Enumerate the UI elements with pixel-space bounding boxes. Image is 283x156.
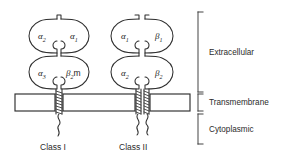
bracket-cytoplasmic — [198, 114, 203, 144]
class-i-interdomain-linker — [57, 53, 61, 56]
class-ii-cytoplasmic-tail-alpha — [137, 114, 139, 135]
caption-class-i: Class I — [40, 142, 66, 152]
class-i-transmembrane-helix — [56, 89, 62, 114]
bracket-transmembrane — [198, 94, 203, 111]
mhc-structure-figure: α2 α1 α3 β2m α1 β1 α2 β2 Extracellular T… — [0, 0, 283, 156]
class-ii-cytoplasmic-tail-beta — [146, 114, 148, 135]
class-i-label-alpha2: α2 — [38, 31, 46, 43]
class-ii-label-alpha2: α2 — [121, 68, 129, 80]
class-i-upper-clasp — [57, 15, 61, 19]
membrane-bar-right — [150, 94, 190, 111]
region-label-transmembrane: Transmembrane — [209, 98, 269, 107]
class-ii-label-alpha1: α1 — [121, 31, 129, 43]
caption-class-ii: Class II — [119, 142, 147, 152]
region-label-cytoplasmic: Cytoplasmic — [209, 125, 254, 134]
class-i-lower-left-lobe — [29, 56, 57, 89]
class-ii-label-beta1: β1 — [154, 31, 162, 43]
bracket-extracellular — [198, 12, 203, 92]
class-i-label-alpha3: α3 — [38, 68, 46, 80]
membrane-bar-left — [15, 94, 55, 111]
class-ii-upper-left-clasp — [135, 15, 139, 19]
class-i-cytoplasmic-tail — [58, 114, 60, 136]
class-ii-transmembrane-helix-alpha — [136, 89, 141, 114]
region-label-extracellular: Extracellular — [209, 48, 254, 57]
membrane-bar-center — [63, 94, 135, 111]
class-ii-upper-right-clasp — [145, 15, 149, 19]
class-ii-label-beta2: β2 — [154, 68, 162, 80]
class-i-label-beta2m: β2m — [65, 68, 81, 80]
class-i-label-alpha1: α1 — [70, 31, 78, 43]
class-ii-transmembrane-helix-beta — [144, 89, 149, 114]
class-ii-interdomain-linker — [139, 53, 145, 56]
